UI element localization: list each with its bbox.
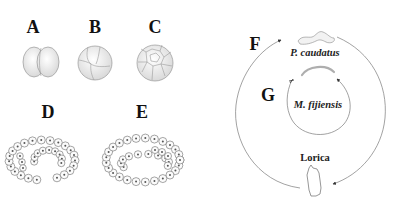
cell-nucleus (32, 140, 34, 142)
outer-cycle-arc-left (236, 40, 300, 188)
panel-e: E (102, 102, 184, 186)
cell-nucleus (144, 181, 146, 183)
cell-nucleus (19, 155, 21, 157)
m-fijiensis-sketch-icon (302, 67, 334, 75)
cell-nucleus (70, 149, 72, 151)
cell-nucleus (74, 159, 76, 161)
cell-nucleus (56, 177, 58, 179)
cell-nucleus (108, 167, 110, 169)
panel-c: C (137, 17, 173, 81)
cell-nucleus (137, 153, 139, 155)
inner-arrow-left (289, 79, 294, 83)
panel-label-a: A (27, 17, 40, 37)
cell-nucleus (157, 154, 159, 156)
cell-nucleus (161, 151, 163, 153)
life-cycle-diagram: F G P. caudatus M. fijiensis Lorica (236, 32, 386, 196)
cell-nucleus (12, 150, 14, 152)
panel-label-e: E (136, 102, 148, 122)
cell-nucleus (178, 154, 180, 156)
cell-nucleus (112, 146, 114, 148)
cell-nucleus (21, 161, 23, 163)
cell-nucleus (154, 149, 156, 151)
cell-nucleus (162, 178, 164, 180)
cell-nucleus (118, 176, 120, 178)
cell-nucleus (105, 156, 107, 158)
cell-nucleus (135, 137, 137, 139)
cell-nucleus (17, 146, 19, 148)
cell-nucleus (108, 151, 110, 153)
cell-nucleus (162, 140, 164, 142)
cell-nucleus (34, 156, 36, 158)
cell-nucleus (20, 174, 22, 176)
cell-nucleus (23, 142, 25, 144)
cell-nucleus (9, 155, 11, 157)
cell-nucleus (54, 150, 56, 152)
cell-nucleus (14, 170, 16, 172)
panel-d: D (5, 102, 79, 184)
panel-label-c: C (149, 17, 162, 37)
cell-nucleus (49, 140, 51, 142)
cell-nucleus (73, 154, 75, 156)
folded-embryo-icon (102, 134, 184, 186)
cell-nucleus (27, 177, 29, 179)
figure-canvas: A B C D E (0, 0, 400, 209)
cell-nucleus (122, 158, 124, 160)
cell-nucleus (63, 174, 65, 176)
cell-nucleus (126, 139, 128, 141)
cell-nucleus (40, 139, 42, 141)
cell-nucleus (128, 155, 130, 157)
cell-nucleus (178, 164, 180, 166)
panel-b: B (78, 17, 112, 80)
four-cell-embryo-icon (78, 46, 112, 80)
cell-nucleus (169, 144, 171, 146)
cell-nucleus (144, 137, 146, 139)
cell-nucleus (42, 150, 44, 152)
p-caudatus-sketch-icon (298, 32, 334, 45)
cell-nucleus (8, 160, 10, 162)
cell-nucleus (167, 155, 169, 157)
multicell-embryo-icon (137, 45, 173, 81)
cell-nucleus (153, 180, 155, 182)
panel-label-b: B (89, 17, 101, 37)
cell-nucleus (48, 149, 50, 151)
panel-label-g: G (261, 85, 275, 105)
cell-nucleus (174, 148, 176, 150)
cell-nucleus (169, 174, 171, 176)
cell-nucleus (126, 179, 128, 181)
two-cell-embryo-icon (23, 47, 59, 77)
cell-nucleus (73, 165, 75, 167)
lorica-sketch-icon (307, 165, 321, 196)
cell-nucleus (147, 153, 149, 155)
outer-cycle-arc-right (333, 37, 385, 184)
panel-label-f: F (250, 34, 261, 54)
cell-nucleus (64, 145, 66, 147)
panel-label-d: D (42, 102, 55, 122)
outer-species-label: P. caudatus (290, 47, 339, 58)
cell-nucleus (167, 165, 169, 167)
cell-nucleus (60, 162, 62, 164)
cell-nucleus (22, 167, 24, 169)
cell-nucleus (118, 142, 120, 144)
cell-nucleus (153, 138, 155, 140)
cell-nucleus (112, 172, 114, 174)
cell-nucleus (57, 142, 59, 144)
cell-nucleus (135, 181, 137, 183)
cell-nucleus (36, 179, 38, 181)
panel-a: A (23, 17, 59, 77)
cell-nucleus (37, 152, 39, 154)
inner-species-label: M. fijiensis (293, 99, 342, 110)
cell-nucleus (10, 166, 12, 168)
cell-nucleus (174, 170, 176, 172)
cell-nucleus (69, 170, 71, 172)
cell-nucleus (105, 162, 107, 164)
cell-nucleus (179, 159, 181, 161)
folding-embryo-icon (5, 136, 79, 184)
lorica-label: Lorica (300, 152, 330, 163)
